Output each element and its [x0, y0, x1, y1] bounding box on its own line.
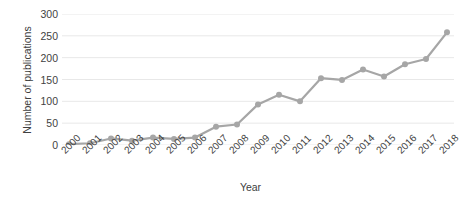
y-tick-label: 150 — [32, 75, 58, 85]
y-tick-label: 100 — [32, 96, 58, 106]
plot-area — [62, 14, 454, 145]
data-point — [381, 73, 387, 79]
data-point — [318, 75, 324, 81]
data-point — [297, 98, 303, 104]
y-tick-label: 300 — [32, 9, 58, 19]
data-point — [339, 77, 345, 83]
data-point — [423, 56, 429, 62]
data-point — [234, 121, 240, 127]
data-point — [213, 124, 219, 130]
publications-line-chart: Number of publications 05010015020025030… — [0, 0, 467, 200]
gridlines — [62, 14, 454, 145]
data-markers — [66, 29, 450, 145]
data-point — [360, 66, 366, 72]
data-line — [69, 32, 447, 144]
data-point — [444, 29, 450, 35]
data-point — [402, 61, 408, 67]
y-tick-label: 250 — [32, 31, 58, 41]
x-axis-tick-labels: 2000200120022003200420052006200720082009… — [62, 145, 454, 181]
data-point — [255, 101, 261, 107]
y-tick-label: 50 — [32, 118, 58, 128]
y-axis-tick-labels: 050100150200250300 — [28, 14, 58, 145]
data-point — [276, 92, 282, 98]
x-axis-title-text: Year — [206, 181, 261, 193]
y-tick-label: 200 — [32, 53, 58, 63]
x-axis-title: Year — [0, 181, 467, 193]
y-tick-label: 0 — [32, 140, 58, 150]
